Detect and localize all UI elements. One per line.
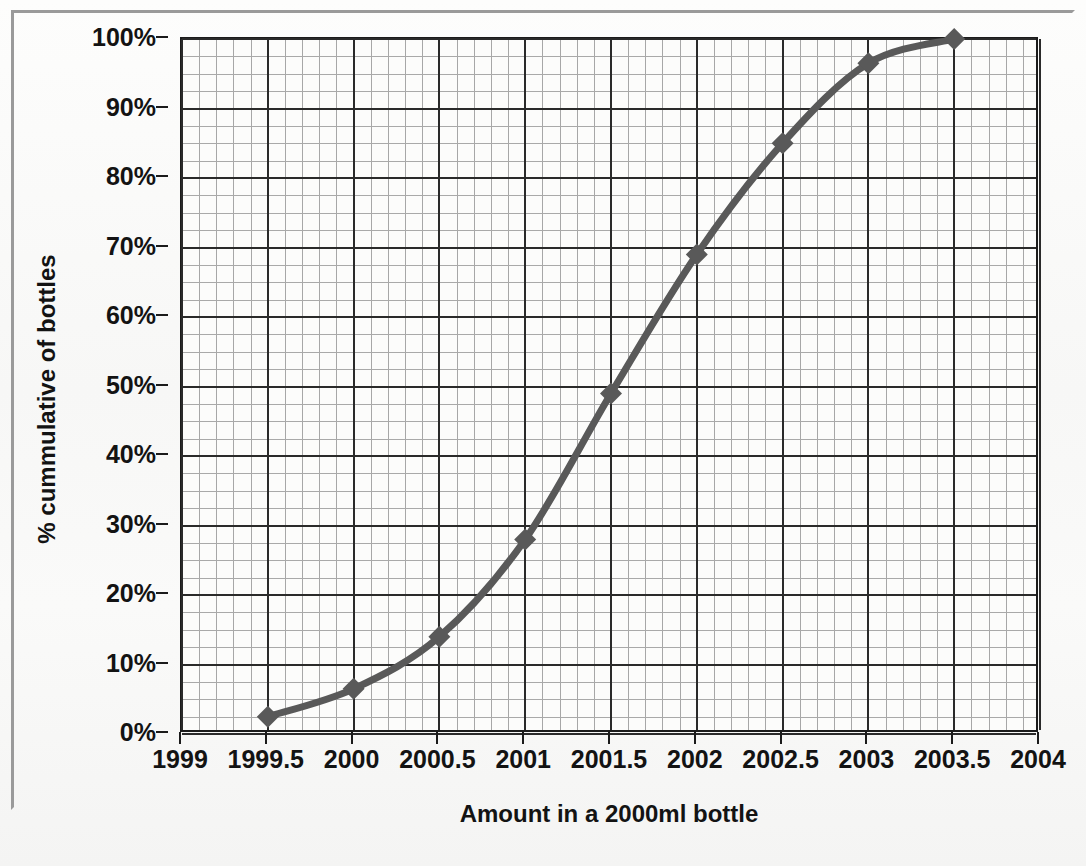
x-axis-tick-label: 2003 — [839, 745, 895, 774]
y-axis-tick-labels: 0%10%20%30%40%50%60%70%80%90%100% — [0, 37, 168, 732]
x-axis-tick-mark — [265, 732, 267, 744]
x-axis-tick-label: 2001 — [495, 745, 551, 774]
x-axis-tick-marks — [180, 732, 1038, 746]
series-line — [268, 39, 954, 717]
x-axis-tick-label: 2003.5 — [914, 745, 990, 774]
y-axis-tick-label: 40% — [106, 440, 156, 469]
y-axis-tick-label: 70% — [106, 231, 156, 260]
y-axis-tick-label: 90% — [106, 92, 156, 121]
x-axis-title: Amount in a 2000ml bottle — [180, 800, 1038, 828]
y-axis-tick-label: 20% — [106, 579, 156, 608]
x-axis-tick-label: 2001.5 — [571, 745, 647, 774]
y-axis-tick-label: 0% — [120, 718, 156, 747]
x-axis-tick-mark — [522, 732, 524, 744]
x-axis-tick-mark — [436, 732, 438, 744]
y-axis-tick-mark — [156, 314, 168, 316]
y-axis-title-wrapper: % cummulative of bottles — [0, 0, 1, 1]
x-axis-tick-mark — [179, 732, 181, 744]
x-axis-tick-label: 2002.5 — [742, 745, 818, 774]
y-axis-tick-mark — [156, 731, 168, 733]
data-point-marker — [257, 706, 279, 728]
x-axis-tick-label: 1999 — [152, 745, 208, 774]
x-axis-tick-mark — [351, 732, 353, 744]
x-axis-tick-mark — [1037, 732, 1039, 744]
x-axis-tick-labels: 19991999.520002000.520012001.520022002.5… — [180, 745, 1038, 785]
x-axis-tick-mark — [780, 732, 782, 744]
x-axis-tick-label: 2004 — [1010, 745, 1066, 774]
x-axis-tick-mark — [865, 732, 867, 744]
y-axis-tick-mark — [156, 175, 168, 177]
y-axis-tick-mark — [156, 592, 168, 594]
x-axis-tick-label: 2000.5 — [399, 745, 475, 774]
y-axis-tick-mark — [156, 523, 168, 525]
y-axis-tick-label: 50% — [106, 370, 156, 399]
x-axis-tick-mark — [951, 732, 953, 744]
y-axis-tick-mark — [156, 384, 168, 386]
y-axis-tick-label: 80% — [106, 162, 156, 191]
y-axis-tick-label: 100% — [92, 23, 156, 52]
x-axis-tick-label: 1999.5 — [228, 745, 304, 774]
y-axis-title: % cummulative of bottles — [33, 119, 61, 679]
y-axis-tick-label: 60% — [106, 301, 156, 330]
data-series-layer — [182, 39, 1040, 734]
chart-page: 0%10%20%30%40%50%60%70%80%90%100% 199919… — [0, 0, 1086, 866]
y-axis-tick-mark — [156, 453, 168, 455]
y-axis-tick-label: 10% — [106, 648, 156, 677]
y-axis-tick-label: 30% — [106, 509, 156, 538]
x-axis-tick-mark — [608, 732, 610, 744]
y-axis-tick-mark — [156, 245, 168, 247]
x-axis-tick-label: 2000 — [324, 745, 380, 774]
x-axis-tick-mark — [694, 732, 696, 744]
plot-area — [180, 37, 1038, 732]
y-axis-tick-mark — [156, 662, 168, 664]
y-axis-tick-mark — [156, 106, 168, 108]
data-point-marker — [343, 678, 365, 700]
y-axis-tick-mark — [156, 36, 168, 38]
x-axis-tick-label: 2002 — [667, 745, 723, 774]
